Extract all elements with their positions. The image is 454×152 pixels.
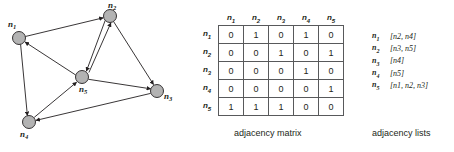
graph-node-n5[interactable] bbox=[76, 71, 89, 84]
edge-n3-n4 bbox=[36, 93, 151, 120]
matrix-cell: 1 bbox=[244, 98, 269, 116]
list-item: n4 [n5] bbox=[372, 67, 428, 79]
list-key-n1: n1 bbox=[372, 31, 390, 42]
matrix-cell: 0 bbox=[219, 26, 244, 44]
graph-node-label-n1: n1 bbox=[8, 19, 16, 30]
graph-node-label-n4: n4 bbox=[20, 129, 29, 140]
matrix-cell: 0 bbox=[244, 44, 269, 62]
directed-graph-panel: n1 n2 n3 n4 n5 bbox=[0, 0, 200, 152]
edge-n5-n2 bbox=[89, 23, 111, 73]
matrix-cell: 1 bbox=[219, 98, 244, 116]
matrix-cell: 0 bbox=[319, 62, 344, 80]
matrix-cell: 0 bbox=[269, 80, 294, 98]
matrix-cell: 1 bbox=[244, 26, 269, 44]
matrix-cell: 0 bbox=[319, 26, 344, 44]
matrix-cell: 1 bbox=[269, 44, 294, 62]
matrix-column-header-n3: n3 bbox=[269, 12, 294, 26]
matrix-cell: 0 bbox=[219, 44, 244, 62]
graph-node-n2[interactable] bbox=[104, 10, 117, 23]
graph-drawing: n1 n2 n3 n4 n5 bbox=[0, 0, 200, 152]
list-item: n1 [n2, n4] bbox=[372, 30, 428, 42]
matrix-cell: 1 bbox=[319, 44, 344, 62]
graph-representation-figure: n1 n2 n3 n4 n5 n1 n2 n3 n4 n5 bbox=[0, 0, 454, 152]
graph-node-label-n2: n2 bbox=[108, 0, 117, 11]
edge-n5-n3 bbox=[89, 79, 151, 89]
matrix-cell: 1 bbox=[294, 62, 319, 80]
list-key-n3: n3 bbox=[372, 56, 390, 67]
edge-n5-n1 bbox=[25, 42, 76, 75]
graph-node-n4[interactable] bbox=[23, 116, 36, 129]
matrix-row-header-n5: n5 bbox=[196, 98, 219, 116]
caption-adjacency-lists: adjacency lists bbox=[372, 128, 431, 138]
list-value-n5: [n1, n2, n3] bbox=[390, 81, 428, 90]
adjacency-lists-panel: n1 [n2, n4] n2 [n3, n5] n3 [n4] n4 [n5] … bbox=[372, 30, 428, 92]
table-row: n5 1 1 1 0 0 bbox=[196, 98, 344, 116]
caption-adjacency-matrix: adjacency matrix bbox=[234, 128, 302, 138]
list-key-n2: n2 bbox=[372, 43, 390, 54]
matrix-row-header-n4: n4 bbox=[196, 80, 219, 98]
matrix-cell: 0 bbox=[219, 62, 244, 80]
matrix-cell: 0 bbox=[244, 62, 269, 80]
matrix-cell: 1 bbox=[294, 26, 319, 44]
list-value-n2: [n3, n5] bbox=[390, 44, 416, 53]
matrix-column-header-n2: n2 bbox=[244, 12, 269, 26]
matrix-column-header-n5: n5 bbox=[319, 12, 344, 26]
matrix-row-header-n3: n3 bbox=[196, 62, 219, 80]
graph-node-n3[interactable] bbox=[151, 85, 164, 98]
matrix-cell: 1 bbox=[319, 80, 344, 98]
matrix-row-header-n2: n2 bbox=[196, 44, 219, 62]
table-row: n4 0 0 0 0 1 bbox=[196, 80, 344, 98]
matrix-cell: 0 bbox=[294, 80, 319, 98]
graph-node-n1[interactable] bbox=[13, 32, 26, 45]
matrix-column-header-n1: n1 bbox=[219, 12, 244, 26]
matrix-cell: 0 bbox=[244, 80, 269, 98]
edge-n2-n5 bbox=[86, 20, 105, 71]
adjacency-matrix-table: n1 n2 n3 n4 n5 n1 0 1 0 1 0 n2 bbox=[196, 12, 344, 116]
table-row: n3 0 0 0 1 0 bbox=[196, 62, 344, 80]
list-value-n3: [n4] bbox=[390, 56, 404, 65]
adjacency-matrix-panel: n1 n2 n3 n4 n5 n1 0 1 0 1 0 n2 bbox=[196, 12, 344, 116]
node-layer bbox=[13, 10, 164, 129]
graph-node-label-n3: n3 bbox=[164, 91, 173, 102]
graph-node-label-n5: n5 bbox=[79, 84, 88, 95]
matrix-corner-cell bbox=[196, 12, 219, 26]
list-item: n2 [n3, n5] bbox=[372, 42, 428, 54]
list-value-n1: [n2, n4] bbox=[390, 32, 416, 41]
matrix-cell: 0 bbox=[294, 98, 319, 116]
matrix-cell: 0 bbox=[269, 26, 294, 44]
matrix-row-header-n1: n1 bbox=[196, 26, 219, 44]
matrix-cell: 0 bbox=[219, 80, 244, 98]
list-key-n5: n5 bbox=[372, 80, 390, 91]
edge-layer bbox=[21, 18, 154, 121]
table-row: n1 0 1 0 1 0 bbox=[196, 26, 344, 44]
table-row: n2 0 0 1 0 1 bbox=[196, 44, 344, 62]
list-item: n3 [n4] bbox=[372, 55, 428, 67]
matrix-cell: 0 bbox=[269, 62, 294, 80]
matrix-cell: 0 bbox=[294, 44, 319, 62]
matrix-column-header-n4: n4 bbox=[294, 12, 319, 26]
matrix-cell: 1 bbox=[269, 98, 294, 116]
list-value-n4: [n5] bbox=[390, 69, 404, 78]
list-item: n5 [n1, n2, n3] bbox=[372, 80, 428, 92]
matrix-cell: 0 bbox=[319, 98, 344, 116]
edge-n2-n3 bbox=[114, 22, 154, 85]
edge-n1-n4 bbox=[21, 44, 28, 115]
list-key-n4: n4 bbox=[372, 68, 390, 79]
edge-n1-n2 bbox=[25, 18, 103, 37]
matrix-header-row: n1 n2 n3 n4 n5 bbox=[196, 12, 344, 26]
